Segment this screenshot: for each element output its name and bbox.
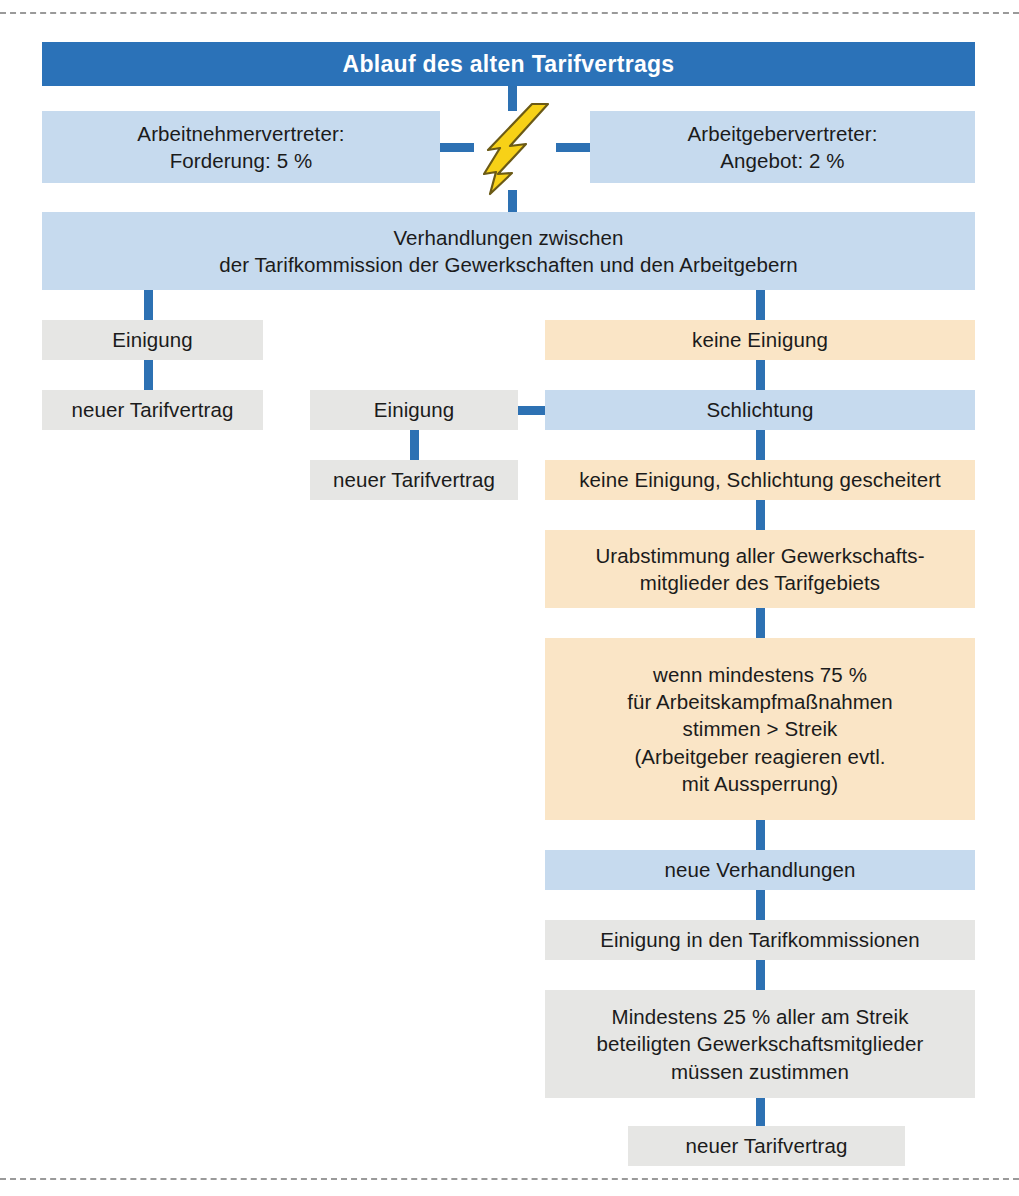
node-einigung-tarifkommissionen: Einigung in den Tarifkommissionen bbox=[545, 920, 975, 960]
node-neuer-tarifvertrag-mitte: neuer Tarifvertrag bbox=[310, 460, 518, 500]
node-streik-schwelle: wenn mindestens 75 % für Arbeitskampfmaß… bbox=[545, 638, 975, 820]
connector-keine-einigung-to-schlichtung bbox=[756, 360, 765, 390]
node-arbeitgebervertreter: Arbeitgebervertreter: Angebot: 2 % bbox=[590, 111, 975, 183]
connector-negotiations-to-keine-einigung bbox=[756, 290, 765, 320]
connector-employee-to-bolt bbox=[440, 143, 474, 152]
node-arbeitnehmervertreter: Arbeitnehmervertreter: Forderung: 5 % bbox=[42, 111, 440, 183]
connector-zustimmung-to-tarifvertrag bbox=[756, 1098, 765, 1126]
connector-urabstimmung-to-streik bbox=[756, 608, 765, 638]
node-neuer-tarifvertrag-final: neuer Tarifvertrag bbox=[628, 1126, 905, 1166]
node-header-ablauf: Ablauf des alten Tarifvertrags bbox=[42, 42, 975, 86]
tarifvertrag-flowchart: Ablauf des alten Tarifvertrags Arbeitneh… bbox=[0, 0, 1019, 1196]
lightning-bolt-icon bbox=[474, 100, 552, 198]
divider-top bbox=[0, 12, 1019, 14]
connector-bolt-to-employer bbox=[556, 143, 590, 152]
node-schlichtung-gescheitert: keine Einigung, Schlichtung gescheitert bbox=[545, 460, 975, 500]
node-urabstimmung: Urabstimmung aller Gewerkschafts- mitgli… bbox=[545, 530, 975, 608]
node-verhandlungen: Verhandlungen zwischen der Tarifkommissi… bbox=[42, 212, 975, 290]
node-einigung-mitte: Einigung bbox=[310, 390, 518, 430]
divider-bottom bbox=[0, 1178, 1019, 1180]
node-neuer-tarifvertrag-links: neuer Tarifvertrag bbox=[42, 390, 263, 430]
node-zustimmung-schwelle: Mindestens 25 % aller am Streik beteilig… bbox=[545, 990, 975, 1098]
connector-neue-verhandlungen-to-einigung bbox=[756, 890, 765, 920]
connector-einigung-to-tarifvertrag-mitte bbox=[410, 430, 419, 460]
connector-split-to-negotiations bbox=[508, 190, 517, 212]
connector-einigung-to-tarifvertrag-links bbox=[144, 360, 153, 390]
node-neue-verhandlungen: neue Verhandlungen bbox=[545, 850, 975, 890]
connector-einigung-to-zustimmung bbox=[756, 960, 765, 990]
connector-schlichtung-to-gescheitert bbox=[756, 430, 765, 460]
node-schlichtung: Schlichtung bbox=[545, 390, 975, 430]
connector-negotiations-to-einigung bbox=[144, 290, 153, 320]
connector-gescheitert-to-urabstimmung bbox=[756, 500, 765, 530]
node-einigung-links: Einigung bbox=[42, 320, 263, 360]
connector-streik-to-neue-verhandlungen bbox=[756, 820, 765, 850]
node-keine-einigung: keine Einigung bbox=[545, 320, 975, 360]
connector-schlichtung-to-einigung-mitte bbox=[518, 406, 545, 415]
